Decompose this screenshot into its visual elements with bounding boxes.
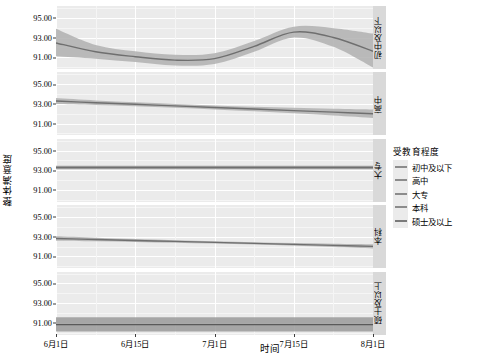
legend-title: 受教育程度 (393, 145, 481, 157)
y-tick-label: 91.00 (33, 53, 52, 62)
legend-item-label: 本科 (412, 201, 428, 213)
legend-item[interactable]: 高中 (393, 174, 481, 188)
legend-item-label: 初中及以下 (412, 161, 452, 173)
plot-panel (56, 6, 373, 69)
legend: 受教育程度 初中及以下高中大专本科硕士及以上 (393, 145, 481, 228)
y-tick-label: 93.00 (33, 299, 52, 308)
facet-panel: 95.0093.0091.00大专 (16, 139, 386, 202)
y-tick-label: 95.00 (33, 146, 52, 155)
legend-key-swatch (393, 201, 408, 215)
y-tick-label: 93.00 (33, 33, 52, 42)
facet-panel: 95.0093.0091.00高中 (16, 72, 386, 135)
x-axis-title-text: 时间 (260, 344, 280, 354)
x-axis-title: 时间 (16, 341, 483, 355)
y-tick-label: 91.00 (33, 318, 52, 327)
y-tick-label: 93.00 (33, 166, 52, 175)
y-axis-ticks: 95.0093.0091.00 (16, 205, 56, 268)
y-axis-ticks: 95.0093.0091.00 (16, 6, 56, 69)
facet-strip-label: 硕士及以上 (373, 272, 386, 335)
plot-panel (56, 139, 373, 202)
confidence-band (56, 26, 373, 68)
y-axis-ticks: 95.0093.0091.00 (16, 72, 56, 135)
facet-strip-text: 初中及以下 (374, 17, 386, 59)
chart-root: 整体满意度 95.0093.0091.00初中及以下95.0093.0091.0… (0, 0, 483, 358)
y-axis-ticks: 95.0093.0091.00 (16, 272, 56, 335)
facet-panel: 95.0093.0091.00初中及以下 (16, 6, 386, 69)
y-tick-label: 95.00 (33, 13, 52, 22)
y-tick-label: 93.00 (33, 232, 52, 241)
facet-strip-label: 本科 (373, 205, 386, 268)
facet-panel: 95.0093.0091.00硕士及以上 (16, 272, 386, 335)
legend-key-swatch (393, 174, 408, 188)
facet-strip-text: 硕士及以上 (374, 282, 386, 324)
facet-strip-label: 初中及以下 (373, 6, 386, 69)
facet-strip-text: 本科 (374, 228, 386, 245)
plot-panel (56, 272, 373, 335)
y-axis-ticks: 95.0093.0091.00 (16, 139, 56, 202)
y-tick-label: 91.00 (33, 185, 52, 194)
trend-line (56, 101, 373, 114)
facet-grid: 95.0093.0091.00初中及以下95.0093.0091.00高中95.… (16, 6, 386, 334)
legend-item-label: 高中 (412, 174, 428, 186)
legend-items: 初中及以下高中大专本科硕士及以上 (393, 160, 481, 228)
y-tick-label: 95.00 (33, 279, 52, 288)
legend-item-label: 大专 (412, 188, 428, 200)
legend-item[interactable]: 大专 (393, 187, 481, 201)
y-tick-label: 95.00 (33, 212, 52, 221)
legend-key-swatch (393, 214, 408, 228)
facet-panel: 95.0093.0091.00本科 (16, 205, 386, 268)
y-axis-title: 整体满意度 (0, 0, 16, 358)
y-tick-label: 91.00 (33, 119, 52, 128)
legend-key-swatch (393, 187, 408, 201)
legend-item[interactable]: 硕士及以上 (393, 214, 481, 228)
facet-strip-label: 高中 (373, 72, 386, 135)
legend-item-label: 硕士及以上 (412, 215, 452, 227)
y-tick-label: 93.00 (33, 99, 52, 108)
facet-strip-text: 大专 (374, 162, 386, 179)
facet-strip-label: 大专 (373, 139, 386, 202)
legend-item[interactable]: 初中及以下 (393, 160, 481, 174)
y-axis-title-text: 整体满意度 (1, 153, 15, 206)
legend-key-swatch (393, 160, 408, 174)
y-tick-label: 91.00 (33, 252, 52, 261)
y-tick-label: 95.00 (33, 80, 52, 89)
plot-panel (56, 205, 373, 268)
trend-line (56, 239, 373, 247)
plot-panel (56, 72, 373, 135)
facet-strip-text: 高中 (374, 96, 386, 113)
legend-item[interactable]: 本科 (393, 201, 481, 215)
